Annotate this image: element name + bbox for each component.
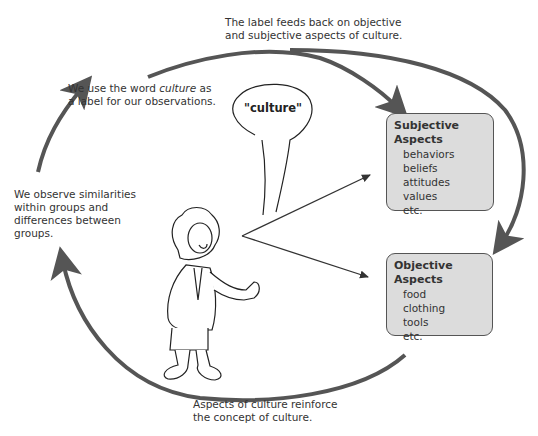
list-item: clothing <box>394 301 485 315</box>
caption-observe: We observe similarities within groups an… <box>14 188 136 240</box>
presenter-figure <box>164 208 259 381</box>
caption-reinforce: Aspects of culture reinforce the concept… <box>193 398 338 424</box>
objective-aspects-box: Objective Aspects food clothing tools et… <box>386 253 493 336</box>
caption-feedback: The label feeds back on objective and su… <box>225 16 402 42</box>
list-item: etc. <box>394 203 486 217</box>
caption-label: We use the word culture as a label for o… <box>68 82 216 108</box>
subjective-aspects-box: Subjective Aspects behaviors beliefs att… <box>386 113 494 211</box>
list-item: attitudes <box>394 175 486 189</box>
list-item: food <box>394 287 485 301</box>
reinforce-arrow <box>63 262 405 400</box>
list-item: tools <box>394 315 485 329</box>
arrow-to-subjective <box>242 175 370 236</box>
list-item: etc. <box>394 329 485 343</box>
list-item: values <box>394 189 486 203</box>
list-item: behaviors <box>394 147 486 161</box>
list-item: beliefs <box>394 161 486 175</box>
arrow-to-objective <box>242 236 368 277</box>
speech-bubble-text: "culture" <box>244 101 302 115</box>
